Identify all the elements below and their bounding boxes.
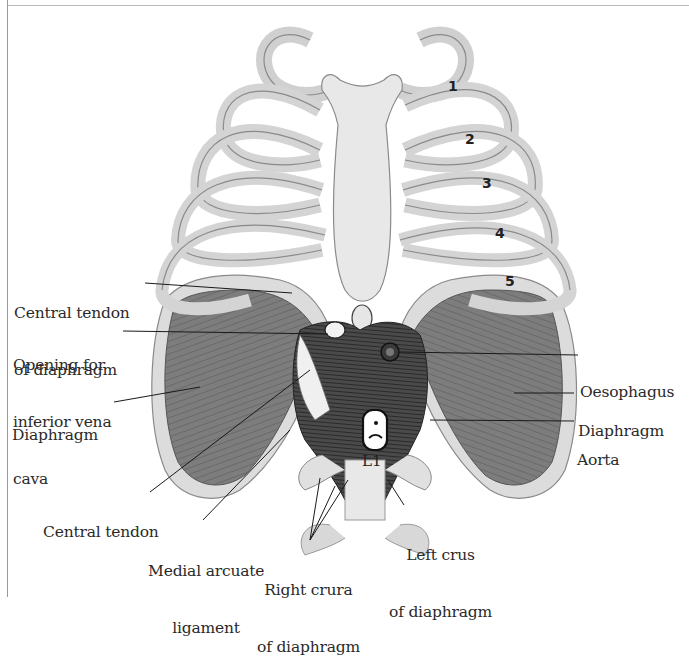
- label-left-crus-of-diaphragm: Left crus of diaphragm: [389, 508, 492, 641]
- rib-number-4: 4: [495, 225, 505, 241]
- rib-number-3: 3: [482, 175, 492, 191]
- rib-number-5: 5: [505, 273, 515, 289]
- vertebra-label-l1: L1: [362, 452, 382, 470]
- ribs-right: [400, 35, 570, 309]
- rib-number-1: 1: [448, 78, 458, 94]
- label-aorta: Aorta: [577, 413, 619, 489]
- ivc-opening: [325, 322, 345, 338]
- rib-number-2: 2: [465, 131, 475, 147]
- label-central-tendon: Central tendon: [43, 485, 159, 561]
- ribs-left: [162, 35, 330, 309]
- label-diaphragm-left: Diaphragm: [12, 388, 98, 464]
- aorta: [363, 410, 387, 450]
- sternum: [322, 75, 403, 301]
- label-right-crura-of-diaphragm: Right crura of diaphragm: [257, 543, 360, 659]
- label-medial-arcuate-ligament: Medial arcuate ligament: [148, 524, 264, 657]
